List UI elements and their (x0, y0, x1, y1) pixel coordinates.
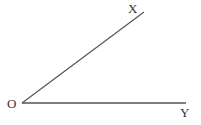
ray-label-x: X (128, 1, 138, 16)
ray-label-y: Y (180, 105, 190, 120)
angle-diagram: O X Y (0, 0, 201, 125)
vertex-label-o: O (7, 96, 16, 111)
ray-ox (22, 12, 144, 103)
